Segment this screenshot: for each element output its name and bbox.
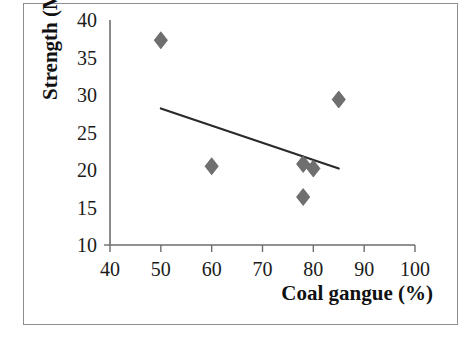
x-tick-label-90: 90 — [354, 258, 374, 280]
y-tick-label-10: 10 — [77, 234, 97, 256]
x-tick-label-70: 70 — [253, 258, 273, 280]
x-tick-label-50: 50 — [151, 258, 171, 280]
data-point-4 — [297, 189, 310, 206]
y-tick-label-35: 35 — [77, 47, 97, 69]
data-point-1 — [205, 158, 218, 175]
trendline-path — [161, 109, 339, 169]
x-axis-title: Coal gangue (%) — [281, 281, 433, 305]
y-axis — [104, 20, 110, 245]
y-axis-tick-labels: 10152025303540 — [77, 9, 97, 256]
x-axis-tick-labels: 405060708090100 — [100, 258, 430, 280]
y-tick-label-15: 15 — [77, 197, 97, 219]
x-tick-label-40: 40 — [100, 258, 120, 280]
y-tick-label-30: 30 — [77, 84, 97, 106]
x-tick-label-100: 100 — [400, 258, 430, 280]
figure-root: 10152025303540 405060708090100 Strength … — [0, 0, 475, 359]
x-axis — [110, 245, 415, 252]
x-tick-label-80: 80 — [303, 258, 323, 280]
data-points — [154, 32, 345, 206]
y-axis-title: Strength (MPa) — [38, 0, 62, 100]
y-tick-label-40: 40 — [77, 9, 97, 31]
trendline — [161, 109, 339, 169]
scatter-chart: 10152025303540 405060708090100 Strength … — [0, 0, 475, 359]
y-tick-label-20: 20 — [77, 159, 97, 181]
x-tick-label-60: 60 — [202, 258, 222, 280]
y-tick-label-25: 25 — [77, 122, 97, 144]
data-point-0 — [154, 32, 167, 49]
data-point-5 — [332, 91, 345, 108]
